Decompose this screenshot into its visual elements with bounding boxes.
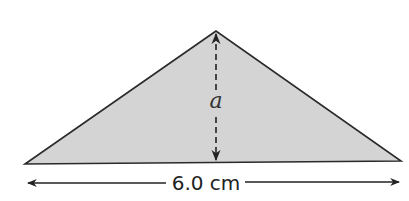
triangle-diagram: a 6.0 cm (0, 0, 409, 201)
height-label: a (209, 88, 222, 113)
base-label: 6.0 cm (172, 171, 241, 195)
